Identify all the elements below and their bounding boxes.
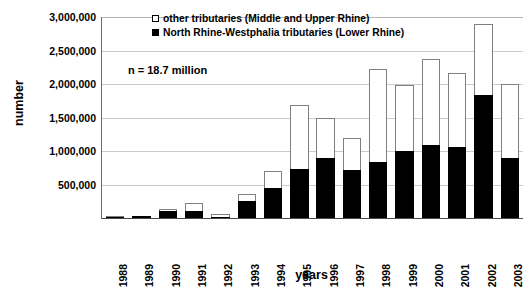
x-axis-tick: 1989 xyxy=(144,264,158,266)
bar-segment-nrw-tributaries[interactable] xyxy=(264,188,282,218)
bar-group[interactable] xyxy=(132,17,150,218)
bar-segment-nrw-tributaries[interactable] xyxy=(448,147,466,218)
bar-segment-nrw-tributaries[interactable] xyxy=(501,158,519,218)
legend-item-nrw-tributaries: North Rhine-Westphalia tributaries (Lowe… xyxy=(152,26,404,40)
bar-group[interactable] xyxy=(290,17,308,218)
x-axis-tick: 2001 xyxy=(460,264,474,266)
bar-group[interactable] xyxy=(264,17,282,218)
x-axis-tick: 2003 xyxy=(513,264,527,266)
bar-group[interactable] xyxy=(159,17,177,218)
y-axis-tick-label: 2,000,000 xyxy=(24,79,96,90)
x-axis-tick: 1998 xyxy=(381,264,395,266)
bar-segment-nrw-tributaries[interactable] xyxy=(316,158,334,218)
bar-segment-nrw-tributaries[interactable] xyxy=(159,211,177,218)
bar-group[interactable] xyxy=(185,17,203,218)
bar-segment-nrw-tributaries[interactable] xyxy=(106,217,124,218)
plot-area xyxy=(101,17,523,219)
bar-segment-nrw-tributaries[interactable] xyxy=(185,211,203,218)
x-axis-tick: 2000 xyxy=(434,264,448,266)
y-axis-tick-label: 2,500,000 xyxy=(24,46,96,57)
bar-segment-nrw-tributaries[interactable] xyxy=(238,201,256,218)
bar-group[interactable] xyxy=(238,17,256,218)
bar-group[interactable] xyxy=(316,17,334,218)
bar-segment-nrw-tributaries[interactable] xyxy=(290,169,308,218)
bar-segment-nrw-tributaries[interactable] xyxy=(422,145,440,218)
x-axis-tick: 1996 xyxy=(329,264,343,266)
bar-segment-nrw-tributaries[interactable] xyxy=(474,95,492,218)
x-axis-tick: 1995 xyxy=(302,264,316,266)
bar-segment-nrw-tributaries[interactable] xyxy=(395,151,413,218)
bar-group[interactable] xyxy=(501,17,519,218)
x-axis-tick: 1993 xyxy=(250,264,264,266)
bar-group[interactable] xyxy=(343,17,361,218)
bar-segment-nrw-tributaries[interactable] xyxy=(343,170,361,218)
y-axis-tick-label: 500,000 xyxy=(24,180,96,191)
x-axis-tick: 1994 xyxy=(276,264,290,266)
sample-size-annotation: n = 18.7 million xyxy=(128,64,207,76)
bar-group[interactable] xyxy=(474,17,492,218)
x-axis-tick: 1997 xyxy=(355,264,369,266)
bars-layer xyxy=(102,17,523,218)
x-axis-tick: 1999 xyxy=(408,264,422,266)
bar-group[interactable] xyxy=(448,17,466,218)
y-axis-tick-label: 1,500,000 xyxy=(24,113,96,124)
bar-group[interactable] xyxy=(211,17,229,218)
bar-group[interactable] xyxy=(422,17,440,218)
bar-segment-nrw-tributaries[interactable] xyxy=(132,216,150,218)
x-axis-tick: 1988 xyxy=(118,264,132,266)
x-axis-tick: 1990 xyxy=(171,264,185,266)
legend-label-nrw-tributaries: North Rhine-Westphalia tributaries (Lowe… xyxy=(163,26,404,40)
legend-label-other-tributaries: other tributaries (Middle and Upper Rhin… xyxy=(163,12,370,26)
chart-legend: other tributaries (Middle and Upper Rhin… xyxy=(152,12,404,39)
y-axis-tick-label: 3,000,000 xyxy=(24,12,96,23)
x-axis-title: years xyxy=(101,268,522,282)
bar-group[interactable] xyxy=(395,17,413,218)
bar-segment-nrw-tributaries[interactable] xyxy=(369,162,387,218)
bar-group[interactable] xyxy=(369,17,387,218)
x-axis-tick-labels: 1988198919901991199219931994199519961997… xyxy=(101,220,522,266)
open-square-swatch-icon xyxy=(152,15,159,22)
filled-square-swatch-icon xyxy=(152,29,159,36)
y-axis-tick-label: 1,000,000 xyxy=(24,146,96,157)
legend-item-other-tributaries: other tributaries (Middle and Upper Rhin… xyxy=(152,12,404,26)
y-axis-tick-labels: 3,000,0002,500,0002,000,0001,500,0001,00… xyxy=(22,0,96,290)
x-axis-tick: 1991 xyxy=(197,264,211,266)
bar-group[interactable] xyxy=(106,17,124,218)
bar-segment-nrw-tributaries[interactable] xyxy=(211,217,229,218)
x-axis-tick: 1992 xyxy=(223,264,237,266)
x-axis-tick: 2002 xyxy=(487,264,501,266)
bar-chart: number 3,000,0002,500,0002,000,0001,500,… xyxy=(0,0,529,290)
